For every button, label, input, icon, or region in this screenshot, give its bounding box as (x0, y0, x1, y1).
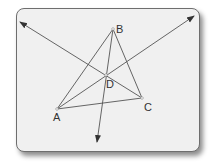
point-b (112, 28, 115, 31)
segment-bc (113, 29, 142, 98)
ray-a-through-d (57, 16, 194, 109)
ray-c-through-d (20, 22, 142, 98)
segment-ab (57, 29, 113, 109)
label-a: A (53, 111, 61, 123)
point-a (56, 108, 59, 111)
label-c: C (144, 101, 152, 113)
label-d: D (106, 78, 114, 90)
point-c (141, 97, 144, 100)
point-d (105, 74, 108, 77)
triangle-diagram: B A C D (0, 0, 214, 168)
label-b: B (116, 23, 123, 35)
segment-ac (57, 98, 142, 109)
